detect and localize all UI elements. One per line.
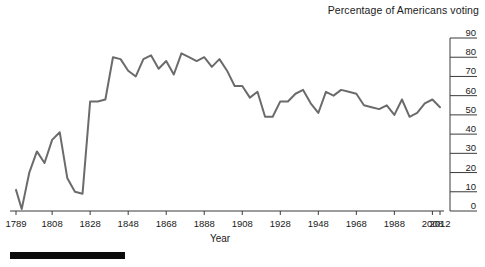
y-tick-label: 90: [452, 27, 476, 38]
footer-rule: [10, 252, 125, 259]
x-tick-label: 1789: [0, 218, 36, 229]
y-tick-label: 30: [452, 142, 476, 153]
x-tick-label: 1888: [184, 218, 224, 229]
chart-title: Percentage of Americans voting: [328, 4, 479, 16]
chart-figure: Percentage of Americans voting 908070605…: [0, 0, 485, 267]
y-tick-label: 10: [452, 181, 476, 192]
y-tick-label: 20: [452, 162, 476, 173]
x-tick-label: 1948: [298, 218, 338, 229]
x-tick-label: 1908: [222, 218, 262, 229]
x-tick-label: 1848: [108, 218, 148, 229]
x-tick-label: 1868: [146, 218, 186, 229]
y-tick-label: 70: [452, 65, 476, 76]
x-tick-label: 1988: [374, 218, 414, 229]
y-tick-label: 60: [452, 85, 476, 96]
x-tick-label: 1828: [70, 218, 110, 229]
y-tick-label: 0: [452, 200, 476, 211]
x-tick-label: 1928: [260, 218, 300, 229]
y-tick-label: 80: [452, 46, 476, 57]
x-tick-label: 1968: [336, 218, 376, 229]
data-series-line: [16, 53, 440, 209]
x-axis-title: Year: [0, 233, 440, 244]
x-tick-label: 2012: [420, 218, 460, 229]
y-tick-label: 50: [452, 104, 476, 115]
x-tick-label: 1808: [32, 218, 72, 229]
y-tick-label: 40: [452, 123, 476, 134]
